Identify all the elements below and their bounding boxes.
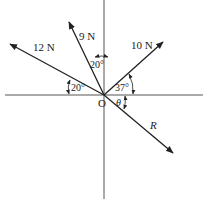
angle-arc-r <box>124 96 125 109</box>
angle-10n-label: 37° <box>115 83 129 93</box>
resultant-r-label: R <box>150 120 157 131</box>
force-12n-label: 12 N <box>33 42 55 53</box>
angle-9n-label: 20° <box>90 60 104 70</box>
force-9n-label: 9 N <box>79 31 95 42</box>
angle-arc-10n <box>129 74 133 94</box>
origin-label: O <box>98 98 106 109</box>
angle-arc-12n <box>68 80 70 94</box>
resultant-r-arrow <box>104 95 173 153</box>
force-10n-label: 10 N <box>131 40 153 51</box>
angle-theta-label: θ <box>116 98 121 108</box>
angle-arc-9n <box>95 56 108 57</box>
angle-12n-label: 20° <box>71 83 85 93</box>
force-diagram: 9 N 12 N 10 N R 20° 20° 37° θ O <box>0 0 206 199</box>
